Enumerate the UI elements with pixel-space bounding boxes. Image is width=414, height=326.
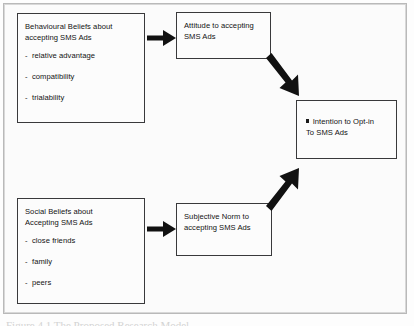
node-subjective-norm-title: Subjective Norm to accepting SMS Ads xyxy=(184,211,267,233)
bullet-dash: - xyxy=(25,235,32,246)
bullet-dash: - xyxy=(25,92,32,103)
bullet-label: relative advantage xyxy=(32,51,95,60)
bullet-label: peers xyxy=(32,278,51,287)
node-social-beliefs-title: Social Beliefs about Accepting SMS Ads xyxy=(25,206,140,228)
node-behavioural-beliefs-title: Behavioural Beliefs about accepting SMS … xyxy=(25,21,140,43)
bullet-item: -compatibility xyxy=(25,71,140,82)
node-attitude-title: Attitude to accepting SMS Ads xyxy=(184,20,266,42)
node-intention: Intention to Opt-in To SMS Ads xyxy=(296,100,397,159)
node-social-beliefs: Social Beliefs about Accepting SMS Ads -… xyxy=(17,198,145,304)
node-behavioural-beliefs: Behavioural Beliefs about accepting SMS … xyxy=(17,13,145,123)
node-behavioural-beliefs-bullets: -relative advantage -compatibility -tria… xyxy=(25,50,140,114)
square-bullet-icon xyxy=(306,119,309,122)
bullet-item: -relative advantage xyxy=(25,50,140,61)
research-model-figure: Behavioural Beliefs about accepting SMS … xyxy=(0,0,414,326)
bullet-label: trialability xyxy=(32,93,64,102)
bullet-dash: - xyxy=(25,256,32,267)
node-subjective-norm: Subjective Norm to accepting SMS Ads xyxy=(176,203,272,256)
bullet-item: -trialability xyxy=(25,92,140,103)
node-social-beliefs-bullets: -close friends -family -peers xyxy=(25,235,140,299)
bullet-label: family xyxy=(32,257,52,266)
figure-caption-partial: Figure 4.1 The Proposed Research Model xyxy=(6,319,306,326)
bullet-item: -close friends xyxy=(25,235,140,246)
node-intention-label: Intention to Opt-in To SMS Ads xyxy=(306,117,374,137)
node-attitude: Attitude to accepting SMS Ads xyxy=(176,12,271,59)
bullet-label: compatibility xyxy=(32,72,74,81)
bullet-item: -peers xyxy=(25,277,140,288)
bullet-label: close friends xyxy=(32,236,75,245)
bullet-dash: - xyxy=(25,277,32,288)
bullet-dash: - xyxy=(25,71,32,82)
bullet-dash: - xyxy=(25,50,32,61)
node-intention-title: Intention to Opt-in To SMS Ads xyxy=(306,116,392,138)
bullet-item: -family xyxy=(25,256,140,267)
